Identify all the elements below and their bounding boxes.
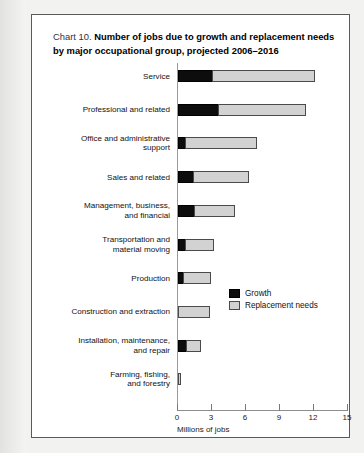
bar-segment-growth [178, 104, 218, 116]
legend-swatch-growth-icon [229, 289, 240, 298]
category-label: Office and administrativesupport [42, 134, 170, 153]
page-edge-shadow [0, 0, 26, 453]
stacked-bar [178, 340, 201, 352]
x-tick-label-15: 15 [343, 413, 352, 422]
category-label-line: Installation, maintenance, [42, 336, 170, 346]
x-tick-label-0: 0 [175, 413, 179, 422]
legend-label-replacement: Replacement needs [245, 301, 318, 310]
category-label: Construction and extraction [42, 307, 170, 317]
bar-segment-replacement [186, 340, 201, 352]
category-label-line: and repair [42, 346, 170, 356]
category-label-line: and financial [42, 211, 170, 221]
category-label-line: Professional and related [42, 105, 170, 115]
category-label: Farming, fishing,and forestry [42, 370, 170, 389]
bar-segment-replacement [185, 137, 258, 149]
chart-title-prefix: Chart 10. [53, 31, 92, 42]
category-label-line: Management, business, [42, 201, 170, 211]
category-label: Transportation andmaterial moving [42, 235, 170, 254]
bar-segment-growth [178, 137, 185, 149]
x-tick-9 [279, 404, 280, 411]
legend-item-growth: Growth [229, 289, 318, 298]
legend-swatch-replacement-icon [229, 301, 240, 310]
stacked-bar [178, 70, 315, 82]
category-label: Service [42, 72, 170, 82]
bar-segment-growth [178, 70, 212, 82]
stacked-bar [178, 239, 214, 251]
chart-card: Chart 10. Number of jobs due to growth a… [31, 14, 350, 438]
x-axis-label: Millions of jobs [177, 425, 229, 434]
category-label-line: support [42, 143, 170, 153]
category-label: Sales and related [42, 173, 170, 183]
bar-segment-replacement [185, 239, 214, 251]
category-label-line: Sales and related [42, 173, 170, 183]
chart-title-main: Number of jobs due to growth and replace… [53, 31, 334, 56]
stacked-bar [178, 137, 257, 149]
x-tick-label-9: 9 [277, 413, 281, 422]
bar-segment-growth [178, 171, 193, 183]
x-tick-label-3: 3 [209, 413, 213, 422]
category-label: Management, business,and financial [42, 201, 170, 220]
chart-title: Chart 10. Number of jobs due to growth a… [53, 30, 339, 57]
page-background: Chart 10. Number of jobs due to growth a… [0, 0, 364, 453]
category-label: Professional and related [42, 105, 170, 115]
bar-segment-replacement [178, 373, 181, 385]
category-label-line: Farming, fishing, [42, 370, 170, 380]
x-tick-6 [245, 404, 246, 411]
legend-label-growth: Growth [245, 289, 271, 298]
category-label-line: Transportation and [42, 235, 170, 245]
category-label-line: Production [42, 274, 170, 284]
x-tick-3 [211, 404, 212, 411]
x-tick-15 [347, 404, 348, 411]
category-label-line: and forestry [42, 379, 170, 389]
bar-segment-replacement [178, 306, 210, 318]
bar-segment-replacement [194, 205, 235, 217]
x-tick-label-12: 12 [309, 413, 318, 422]
bar-segment-replacement [183, 272, 211, 284]
bar-segment-growth [178, 340, 186, 352]
category-label-line: material moving [42, 245, 170, 255]
chart-legend: Growth Replacement needs [229, 289, 318, 313]
stacked-bar [178, 171, 249, 183]
x-tick-0 [177, 404, 178, 411]
bar-segment-replacement [218, 104, 306, 116]
stacked-bar [178, 104, 306, 116]
bar-segment-replacement [212, 70, 315, 82]
stacked-bar [178, 306, 210, 318]
bar-segment-growth [178, 205, 194, 217]
x-tick-label-6: 6 [243, 413, 247, 422]
category-label-line: Service [42, 72, 170, 82]
category-label: Installation, maintenance,and repair [42, 336, 170, 355]
bar-segment-replacement [193, 171, 250, 183]
stacked-bar [178, 373, 181, 385]
plot-area: 03691215 ServiceProfessional and related… [32, 63, 349, 435]
x-tick-12 [313, 404, 314, 411]
category-label-line: Office and administrative [42, 134, 170, 144]
legend-item-replacement: Replacement needs [229, 301, 318, 310]
x-axis-line [177, 410, 347, 411]
stacked-bar [178, 205, 235, 217]
stacked-bar [178, 272, 211, 284]
bar-segment-growth [178, 239, 185, 251]
category-label: Production [42, 274, 170, 284]
category-label-line: Construction and extraction [42, 307, 170, 317]
